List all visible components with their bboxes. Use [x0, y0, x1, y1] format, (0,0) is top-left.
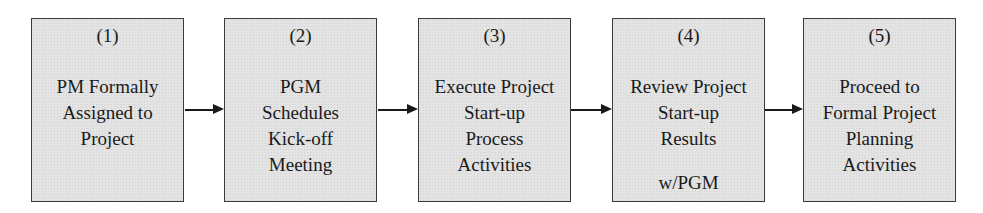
step-label-line: Results — [613, 126, 764, 152]
step-number: (4) — [613, 24, 764, 48]
step-label-line: Start-up — [419, 100, 570, 126]
step-label-line: Kick-off — [225, 126, 376, 152]
step-label: Execute Project Start-up Process Activit… — [419, 74, 570, 178]
step-label-line: Execute Project — [419, 74, 570, 100]
step-label-line: Proceed to — [804, 74, 955, 100]
step-label-line: Meeting — [225, 152, 376, 178]
arrow-head-icon — [792, 104, 803, 114]
step-label-line: Schedules — [225, 100, 376, 126]
arrow-2-to-3 — [378, 109, 418, 111]
step-label-line: PM Formally — [32, 74, 183, 100]
step-number: (2) — [225, 24, 376, 48]
step-label-line: Activities — [419, 152, 570, 178]
step-box-2: (2) PGM Schedules Kick-off Meeting — [224, 18, 377, 202]
arrow-head-icon — [213, 104, 224, 114]
step-number: (3) — [419, 24, 570, 48]
step-footer: w/PGM — [613, 171, 764, 195]
step-label: Review Project Start-up Results — [613, 74, 764, 152]
arrow-line — [378, 109, 409, 111]
step-label-line: Planning — [804, 126, 955, 152]
step-number: (5) — [804, 24, 955, 48]
step-label-line: Activities — [804, 152, 955, 178]
arrow-4-to-5 — [765, 109, 803, 111]
step-box-3: (3) Execute Project Start-up Process Act… — [418, 18, 571, 202]
arrow-head-icon — [601, 104, 612, 114]
arrow-3-to-4 — [571, 109, 612, 111]
step-label-line: PGM — [225, 74, 376, 100]
step-label-line: Formal Project — [804, 100, 955, 126]
step-label-line: Process — [419, 126, 570, 152]
arrow-line — [185, 109, 215, 111]
step-label: Proceed to Formal Project Planning Activ… — [804, 74, 955, 178]
step-box-5: (5) Proceed to Formal Project Planning A… — [803, 18, 956, 202]
arrow-line — [571, 109, 603, 111]
step-box-1: (1) PM Formally Assigned to Project — [31, 18, 184, 202]
arrow-1-to-2 — [185, 109, 224, 111]
step-label-line: Start-up — [613, 100, 764, 126]
step-label-line: Project — [32, 126, 183, 152]
step-number: (1) — [32, 24, 183, 48]
step-label-line: Review Project — [613, 74, 764, 100]
step-box-4: (4) Review Project Start-up Results w/PG… — [612, 18, 765, 202]
step-label: PGM Schedules Kick-off Meeting — [225, 74, 376, 178]
step-label-line: Assigned to — [32, 100, 183, 126]
arrow-line — [765, 109, 794, 111]
arrow-head-icon — [407, 104, 418, 114]
step-label: PM Formally Assigned to Project — [32, 74, 183, 152]
